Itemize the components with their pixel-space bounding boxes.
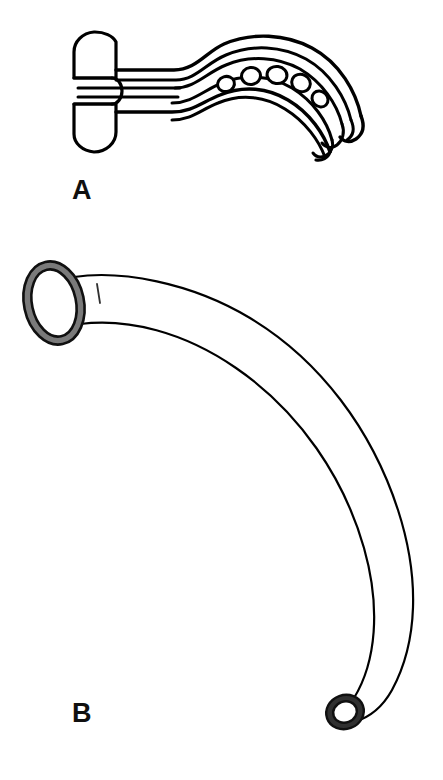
canvas-background [0, 0, 443, 780]
panel-label-a: A [72, 175, 92, 205]
panel-label-b: B [72, 698, 92, 728]
flange-upper-lobe [74, 32, 116, 78]
figure-container: A B [0, 0, 443, 780]
oval-side-hole-3 [266, 65, 288, 85]
medical-illustration-canvas: A B [0, 0, 443, 780]
flange-lower-lobe [74, 104, 116, 152]
oval-side-hole-2 [241, 67, 262, 86]
